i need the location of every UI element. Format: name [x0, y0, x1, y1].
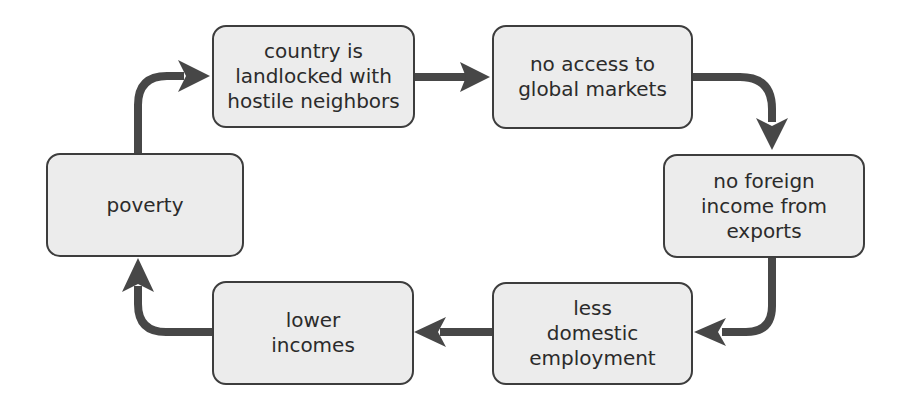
node-poverty: poverty	[46, 153, 244, 257]
arrowhead-icon	[694, 318, 726, 346]
node-no-foreign-income: no foreign income from exports	[663, 154, 865, 258]
node-label: no foreign income from exports	[701, 169, 827, 244]
arrow-lower-incomes-to-poverty	[138, 286, 212, 332]
node-no-access-global-markets: no access to global markets	[492, 25, 693, 129]
arrow-no-foreign-income-to-less-employment	[722, 257, 772, 332]
arrowhead-icon	[756, 118, 788, 150]
node-label: country is landlocked with hostile neigh…	[227, 39, 399, 114]
node-country-landlocked: country is landlocked with hostile neigh…	[212, 25, 415, 128]
node-label: poverty	[107, 193, 184, 218]
arrow-poverty-to-country	[138, 76, 184, 153]
node-less-domestic-employment: less domestic employment	[492, 282, 693, 385]
arrow-no-access-to-no-foreign-income	[692, 77, 772, 122]
node-label: lower incomes	[271, 308, 355, 358]
node-label: less domestic employment	[529, 296, 655, 371]
node-label: no access to global markets	[518, 52, 667, 102]
cycle-diagram: country is landlocked with hostile neigh…	[0, 0, 909, 406]
node-lower-incomes: lower incomes	[212, 281, 414, 385]
